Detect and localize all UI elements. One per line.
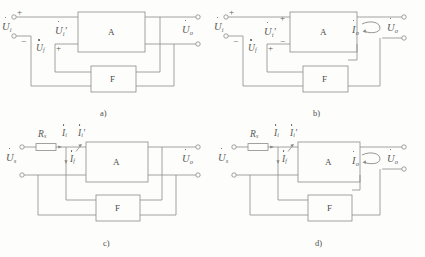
label-net-input-voltage-a: Ui′: [55, 26, 67, 37]
label-output-voltage-d: Uo: [387, 154, 398, 165]
input-terminal-bottom-d: [232, 173, 236, 177]
input-terminal-bottom-c: [20, 173, 24, 177]
label-input-voltage-a: Ui: [2, 22, 12, 33]
amplifier-label-a: A: [108, 28, 115, 37]
output-terminal-top-a: [196, 15, 200, 19]
caption-d: d): [315, 238, 322, 248]
caption-a: a): [100, 108, 107, 118]
net-input-minus-sign-b: −: [280, 37, 285, 46]
input-minus-sign-a: −: [21, 37, 26, 46]
label-net-input-current-c: Ii′: [78, 129, 85, 139]
feedback-label-a: F: [110, 75, 115, 84]
label-input-voltage-b: Ui: [214, 22, 224, 33]
amplifier-label-d: A: [325, 158, 332, 167]
input-terminal-top-d: [232, 145, 236, 149]
arrow-source-current-c: [58, 145, 62, 148]
label-source-resistor-c: Rs: [38, 130, 46, 140]
source-resistor-d: [248, 144, 268, 151]
label-feedback-voltage-b: Uf: [248, 44, 257, 54]
arrow-feedback-current-c: [64, 160, 67, 164]
feedback-label-d: F: [327, 204, 332, 213]
input-minus-sign-b: −: [233, 37, 238, 46]
input-plus-sign-a: +: [17, 8, 22, 17]
label-output-current-d: Io: [352, 156, 359, 167]
panel-c: Rs Us Ii Ii′ If Uo A F c): [0, 128, 212, 257]
feedback-plus-sign-b: +: [268, 44, 273, 53]
net-input-plus-sign-b: +: [280, 14, 285, 23]
panel-a: Ui + − Ui′ Uf + Uo A F a): [0, 0, 212, 128]
amplifier-label-b: A: [320, 28, 327, 37]
input-plus-sign-b: +: [229, 8, 234, 17]
label-output-voltage-a: Uo: [182, 25, 193, 36]
input-terminal-top-a: [12, 15, 16, 19]
caption-b: b): [313, 108, 320, 118]
output-terminal-top-b: [402, 15, 406, 19]
label-feedback-current-d: If: [282, 155, 287, 165]
label-source-voltage-c: Us: [6, 153, 16, 164]
label-source-voltage-d: Us: [218, 153, 228, 164]
panel-d: Rs Us Ii Ii′ If Io Uo A F d): [212, 128, 425, 257]
input-terminal-top-b: [224, 15, 228, 19]
output-terminal-bottom-a: [196, 42, 200, 46]
input-terminal-bottom-a: [12, 34, 16, 38]
source-resistor-c: [36, 144, 56, 151]
feedback-plus-sign-a: +: [56, 44, 61, 53]
label-source-current-d: Ii: [274, 129, 279, 139]
label-output-voltage-b: Uo: [387, 23, 398, 34]
label-feedback-current-c: If: [70, 155, 75, 165]
output-terminal-top-d: [402, 145, 406, 149]
output-terminal-bottom-d: [402, 167, 406, 171]
label-output-voltage-c: Uo: [182, 154, 193, 165]
label-feedback-voltage-a: Uf: [36, 44, 45, 54]
feedback-label-b: F: [322, 75, 327, 84]
input-terminal-bottom-b: [224, 34, 228, 38]
figure-four-feedback-topologies: Ui + − Ui′ Uf + Uo A F a): [0, 0, 425, 257]
input-terminal-top-c: [20, 145, 24, 149]
output-terminal-bottom-c: [196, 173, 200, 177]
label-source-resistor-d: Rs: [250, 130, 258, 140]
output-terminal-top-c: [196, 145, 200, 149]
label-source-current-c: Ii: [62, 129, 67, 139]
arrow-feedback-current-d: [276, 160, 279, 164]
label-net-input-voltage-b: Ui′: [264, 27, 276, 38]
panel-b: Ui + − Ui′ + − Uf + Io Uo A F b): [212, 0, 425, 128]
amplifier-label-c: A: [113, 158, 120, 167]
arrow-source-current-d: [270, 145, 274, 148]
label-net-input-current-d: Ii′: [290, 129, 297, 139]
feedback-label-c: F: [115, 204, 120, 213]
output-terminal-bottom-b: [402, 36, 406, 40]
caption-c: c): [103, 238, 110, 248]
label-output-current-b: Io: [352, 25, 359, 36]
